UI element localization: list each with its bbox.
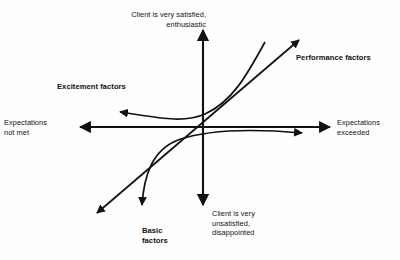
kano-model-diagram: Client is very satisfied, enthusiastic C… bbox=[0, 0, 400, 260]
axis-label-bottom: Client is very unsatisfied, disappointed bbox=[212, 209, 308, 238]
axis-label-right: Expectations exceeded bbox=[337, 118, 399, 137]
basic-factors-curve bbox=[142, 130, 302, 205]
curve-label-performance-factors: Performance factors bbox=[296, 53, 394, 63]
curve-label-basic-factors: Basic factors bbox=[142, 226, 198, 245]
axis-label-left: Expectations not met bbox=[4, 118, 68, 137]
curve-label-excitement-factors: Excitement factors bbox=[57, 82, 161, 92]
excitement-factors-curve bbox=[120, 42, 265, 119]
axis-label-top: Client is very satisfied, enthusiastic bbox=[92, 10, 206, 29]
